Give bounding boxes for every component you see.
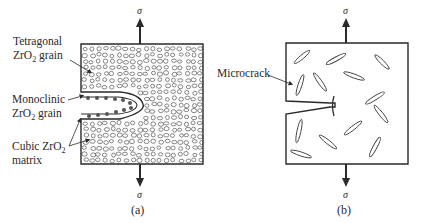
figure: σ σ Tetragonal ZrO2 grain Monoclinic ZrO… bbox=[0, 0, 421, 223]
stress-arrow-top-a bbox=[136, 18, 144, 44]
leader-microcrack bbox=[268, 75, 291, 84]
label-tetragonal-2: ZrO2 grain bbox=[13, 49, 63, 64]
label-microcrack: Microcrack bbox=[217, 67, 270, 79]
panel-a: σ σ Tetragonal ZrO2 grain Monoclinic ZrO… bbox=[12, 5, 205, 217]
monoclinic-grains bbox=[86, 96, 133, 118]
label-cubic-2: matrix bbox=[12, 154, 42, 166]
sigma-bottom-b: σ bbox=[343, 189, 349, 200]
leader-cubic-2 bbox=[69, 140, 88, 146]
label-cubic-1: Cubic ZrO2 bbox=[12, 140, 66, 155]
stress-arrow-bottom-a bbox=[136, 164, 144, 187]
microcracks bbox=[290, 49, 391, 159]
sigma-bottom-a: σ bbox=[137, 189, 143, 200]
sigma-top-b: σ bbox=[343, 5, 349, 16]
leader-cubic-1 bbox=[69, 120, 80, 146]
sigma-top-a: σ bbox=[137, 5, 143, 16]
leader-monoclinic bbox=[68, 96, 82, 100]
stress-arrow-top-b bbox=[342, 18, 350, 43]
label-tetragonal-1: Tetragonal bbox=[13, 35, 62, 48]
leader-tetragonal bbox=[70, 60, 90, 72]
stress-arrow-bottom-b bbox=[342, 164, 350, 187]
crack-tip-b bbox=[333, 96, 335, 116]
specimen-outline-b bbox=[286, 43, 408, 164]
caption-a: (a) bbox=[131, 203, 144, 217]
panel-b: σ σ Microcrack (b) bbox=[217, 5, 408, 217]
transformation-zone bbox=[81, 97, 137, 114]
label-monoclinic-1: Monoclinic bbox=[12, 93, 65, 105]
label-monoclinic-2: ZrO2 grain bbox=[12, 107, 62, 122]
caption-b: (b) bbox=[337, 203, 351, 217]
